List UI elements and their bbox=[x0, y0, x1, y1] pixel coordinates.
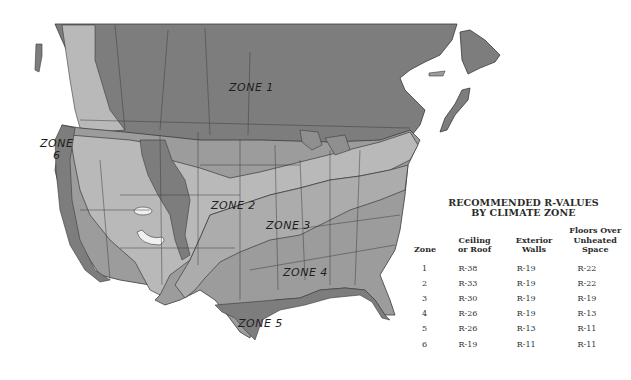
col-ceiling: Ceilingor Roof bbox=[444, 226, 504, 255]
table-row: 2 R-33 R-19 R-22 bbox=[412, 276, 627, 291]
zone-5-label: ZONE 5 bbox=[238, 318, 283, 330]
table-row: 4 R-26 R-19 R-13 bbox=[412, 306, 627, 321]
table-row: 6 R-19 R-11 R-11 bbox=[412, 336, 627, 351]
col-walls: ExteriorWalls bbox=[505, 226, 564, 255]
zone-2-label: ZONE 2 bbox=[211, 200, 256, 212]
legend-title-line2: BY CLIMATE ZONE bbox=[420, 208, 627, 218]
zone-4-label: ZONE 4 bbox=[283, 267, 328, 279]
table-row: 1 R-38 R-19 R-22 bbox=[412, 255, 627, 276]
zone-3-label: ZONE 3 bbox=[266, 220, 311, 232]
r-value-table: Zone Ceilingor Roof ExteriorWalls Floors… bbox=[412, 226, 627, 352]
zone-1-label: ZONE 1 bbox=[229, 82, 274, 94]
col-floors: Floors OverUnheatedSpace bbox=[563, 226, 627, 255]
table-row: 5 R-26 R-13 R-11 bbox=[412, 321, 627, 336]
r-value-legend: RECOMMENDED R-VALUES BY CLIMATE ZONE Zon… bbox=[412, 198, 627, 352]
table-header-row: Zone Ceilingor Roof ExteriorWalls Floors… bbox=[412, 226, 627, 255]
table-row: 3 R-30 R-19 R-19 bbox=[412, 291, 627, 306]
zone-6-label: ZONE 6 bbox=[40, 138, 73, 162]
col-zone: Zone bbox=[412, 226, 444, 255]
